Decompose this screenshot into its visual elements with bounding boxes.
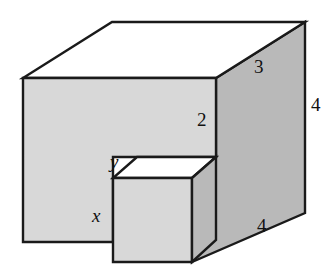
dimension-label-height-right: 4: [311, 95, 321, 114]
dimension-label-length-bottom: 4: [257, 216, 267, 235]
notched-solid-drawing: [0, 0, 328, 273]
dimension-label-notch-depth-y: y: [110, 152, 118, 171]
geometry-figure: 3 4 2 y x 4: [0, 0, 328, 273]
notch-front-face: [113, 178, 192, 262]
dimension-label-notch-height: 2: [197, 110, 207, 129]
dimension-label-depth-top: 3: [254, 57, 264, 76]
dimension-label-notch-width-x: x: [92, 206, 100, 225]
